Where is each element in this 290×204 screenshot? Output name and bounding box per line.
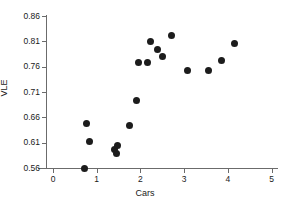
data-point: [218, 57, 225, 64]
y-tick-label: 0.76: [12, 62, 40, 71]
x-tick-label: 3: [174, 175, 194, 184]
x-tick-mark: [53, 169, 54, 173]
data-point: [159, 53, 166, 60]
x-axis-line: [38, 168, 278, 169]
y-tick-label: 0.71: [12, 88, 40, 97]
data-point: [184, 67, 191, 74]
y-tick-mark: [42, 143, 46, 144]
data-point: [81, 165, 88, 172]
y-tick-mark: [42, 67, 46, 68]
x-axis-title: Cars: [0, 188, 290, 198]
x-tick-mark: [97, 169, 98, 173]
x-tick-label: 5: [262, 175, 282, 184]
data-point: [113, 150, 120, 157]
y-tick-label: 0.56: [12, 164, 40, 173]
data-point: [135, 59, 142, 66]
x-tick-mark: [140, 169, 141, 173]
x-tick-label: 2: [130, 175, 150, 184]
y-tick-label: 0.66: [12, 113, 40, 122]
data-point: [133, 97, 140, 104]
data-point: [114, 142, 121, 149]
scatter-plot-figure: 0.560.610.660.710.760.810.86 012345 VLE …: [0, 0, 290, 204]
data-point: [147, 38, 154, 45]
data-point: [168, 32, 175, 39]
data-point: [154, 46, 161, 53]
x-tick-label: 1: [87, 175, 107, 184]
y-tick-mark: [42, 117, 46, 118]
y-axis-title: VLE: [0, 68, 9, 108]
y-tick-mark: [42, 168, 46, 169]
x-tick-mark: [272, 169, 273, 173]
y-tick-label: 0.61: [12, 138, 40, 147]
y-axis-line: [46, 15, 47, 169]
plot-area: 0.560.610.660.710.760.810.86 012345 VLE …: [0, 0, 290, 204]
x-tick-mark: [184, 169, 185, 173]
x-tick-label: 0: [43, 175, 63, 184]
y-tick-mark: [42, 92, 46, 93]
x-tick-mark: [228, 169, 229, 173]
x-tick-label: 4: [218, 175, 238, 184]
data-point: [83, 120, 90, 127]
y-tick-label: 0.81: [12, 37, 40, 46]
y-tick-mark: [42, 41, 46, 42]
data-point: [144, 59, 151, 66]
data-point: [126, 122, 133, 129]
data-point: [231, 40, 238, 47]
data-point: [205, 67, 212, 74]
y-tick-mark: [42, 16, 46, 17]
data-point: [86, 138, 93, 145]
y-tick-label: 0.86: [12, 12, 40, 21]
